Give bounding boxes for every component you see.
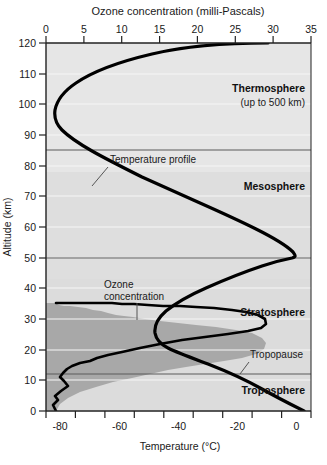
alt-tick-30: 30 [24, 313, 36, 325]
alt-tick-20: 20 [24, 344, 36, 356]
ozone-tick-10: 10 [116, 23, 128, 35]
annotation-label-ozone-line2: concentration [104, 291, 164, 302]
alt-tick-120: 120 [18, 37, 36, 49]
ozone-tick-15: 15 [154, 23, 166, 35]
top-axis-title: Ozone concentration (milli-Pascals) [91, 5, 264, 17]
layer-label-mesosphere: Mesosphere [244, 180, 305, 192]
alt-tick-110: 110 [19, 68, 36, 80]
ozone-tick-25: 25 [229, 23, 241, 35]
layer-label-troposphere: Troposphere [241, 384, 305, 396]
alt-tick-10: 10 [24, 374, 36, 386]
temp-tick-neg60: -60 [112, 420, 127, 432]
ozone-temperature-profile-chart: Ozone concentration (milli-Pascals) 0 5 … [0, 0, 327, 465]
temp-tick-0: 0 [293, 420, 299, 432]
ozone-tick-20: 20 [192, 23, 204, 35]
alt-tick-100: 100 [18, 98, 36, 110]
temp-tick-neg40: -40 [171, 420, 186, 432]
alt-tick-90: 90 [24, 129, 36, 141]
ozone-tick-5: 5 [81, 23, 87, 35]
alt-tick-80: 80 [24, 160, 36, 172]
layer-sublabel-thermosphere: (up to 500 km) [241, 97, 305, 108]
layer-label-stratosphere: Stratosphere [240, 306, 305, 318]
temp-tick-neg20: -20 [230, 420, 245, 432]
y-axis-title: Altitude (km) [1, 198, 13, 257]
alt-tick-40: 40 [24, 282, 36, 294]
alt-tick-0: 0 [30, 405, 36, 417]
annotation-label-ozone-line1: Ozone [104, 279, 134, 290]
alt-tick-60: 60 [24, 221, 36, 233]
bottom-axis-title: Temperature (°C) [140, 440, 221, 452]
ozone-tick-30: 30 [267, 23, 279, 35]
temp-tick-neg80: -80 [52, 420, 67, 432]
annotation-label-tropopause: Tropopause [250, 349, 303, 360]
annotation-label-temperature-profile: Temperature profile [110, 154, 197, 165]
ozone-tick-0: 0 [43, 23, 49, 35]
alt-tick-50: 50 [24, 252, 36, 264]
layer-label-thermosphere: Thermosphere [232, 82, 305, 94]
ozone-tick-35: 35 [305, 23, 317, 35]
alt-tick-70: 70 [24, 190, 36, 202]
